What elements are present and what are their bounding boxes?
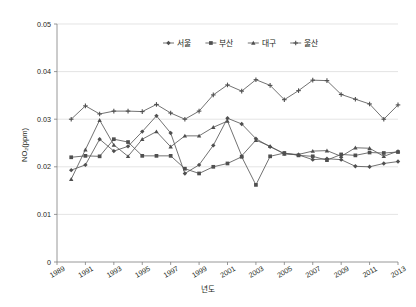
legend: 서울부산대구울산 bbox=[163, 38, 318, 48]
data-point bbox=[69, 168, 73, 172]
data-point bbox=[353, 164, 357, 168]
data-point bbox=[254, 183, 258, 187]
series-4 bbox=[69, 77, 400, 121]
legend-marker-icon bbox=[209, 41, 213, 45]
x-tick-label: 1991 bbox=[76, 264, 94, 280]
data-point bbox=[367, 165, 371, 169]
data-point bbox=[84, 154, 88, 158]
series-line bbox=[71, 120, 398, 179]
legend-item-4[interactable]: 울산 bbox=[290, 38, 318, 48]
series-line bbox=[71, 139, 398, 185]
x-tick-label: 1995 bbox=[133, 264, 151, 280]
data-point bbox=[169, 154, 173, 158]
x-tick-label: 2009 bbox=[332, 264, 350, 280]
series-line bbox=[71, 116, 398, 174]
data-point bbox=[69, 177, 73, 181]
legend-marker-icon bbox=[293, 41, 298, 46]
data-point bbox=[211, 165, 215, 169]
x-tick-label: 1993 bbox=[105, 264, 123, 280]
legend-item-3[interactable]: 대구 bbox=[248, 39, 276, 48]
x-tick-label: 1997 bbox=[162, 264, 180, 280]
data-point bbox=[183, 167, 187, 171]
data-point bbox=[140, 137, 144, 141]
x-axis-title: 년도 bbox=[201, 284, 215, 294]
data-point bbox=[112, 137, 116, 141]
legend-label: 울산 bbox=[304, 38, 318, 48]
legend-label: 대구 bbox=[262, 39, 276, 48]
legend-label: 부산 bbox=[219, 38, 233, 48]
series-line bbox=[71, 80, 398, 120]
y-tick-label: 0.01 bbox=[37, 210, 51, 219]
data-point bbox=[112, 109, 117, 114]
y-tick-label: 0.03 bbox=[37, 115, 51, 124]
x-tick-label: 2003 bbox=[247, 264, 265, 280]
data-point bbox=[97, 118, 101, 122]
x-tick-label: 2007 bbox=[304, 264, 322, 280]
data-point bbox=[126, 109, 131, 114]
y-tick-label: 0 bbox=[47, 258, 51, 267]
data-point bbox=[268, 154, 272, 158]
y-tick-label: 0.04 bbox=[37, 67, 51, 76]
data-point bbox=[126, 140, 130, 144]
data-point bbox=[83, 163, 87, 167]
series-2 bbox=[69, 137, 399, 186]
data-point bbox=[112, 143, 116, 147]
data-point bbox=[353, 97, 358, 102]
chart-container: 00.010.020.030.040.05 198919911993199519… bbox=[0, 0, 416, 307]
x-tick-label: 2001 bbox=[219, 264, 237, 280]
x-axis-tick-labels: 1989199119931995199719992001200320052007… bbox=[48, 264, 407, 280]
series-group bbox=[69, 77, 400, 186]
x-tick-label: 2011 bbox=[361, 264, 379, 280]
data-point bbox=[311, 154, 315, 158]
data-point bbox=[183, 171, 187, 175]
y-axis-title: NO₂(ppm) bbox=[20, 127, 29, 162]
data-point bbox=[325, 158, 329, 162]
data-point bbox=[154, 129, 158, 133]
y-tick-label: 0.02 bbox=[37, 162, 51, 171]
data-point bbox=[140, 109, 145, 114]
x-tick-label: 2005 bbox=[275, 264, 293, 280]
x-axis-group bbox=[57, 262, 398, 265]
y-axis-group bbox=[54, 24, 57, 262]
x-tick-label: 1999 bbox=[190, 264, 208, 280]
data-point bbox=[396, 159, 400, 163]
legend-item-2[interactable]: 부산 bbox=[205, 38, 233, 48]
data-point bbox=[226, 162, 230, 166]
y-tick-label: 0.05 bbox=[37, 20, 51, 29]
data-point bbox=[197, 172, 201, 176]
data-point bbox=[382, 161, 386, 165]
x-tick-label: 2013 bbox=[389, 264, 407, 280]
data-point bbox=[140, 154, 144, 158]
legend-item-1[interactable]: 서울 bbox=[163, 39, 191, 48]
data-point bbox=[339, 157, 343, 161]
data-point bbox=[154, 102, 159, 107]
data-point bbox=[97, 112, 102, 117]
legend-marker-icon bbox=[166, 41, 170, 45]
no2-line-chart: 00.010.020.030.040.05 198919911993199519… bbox=[0, 0, 416, 307]
legend-label: 서울 bbox=[177, 39, 191, 48]
data-point bbox=[69, 155, 73, 159]
series-1 bbox=[69, 114, 400, 176]
data-point bbox=[155, 154, 159, 158]
data-point bbox=[83, 147, 87, 151]
data-point bbox=[168, 111, 173, 116]
data-point bbox=[354, 154, 358, 158]
y-axis-tick-labels: 00.010.020.030.040.05 bbox=[37, 20, 51, 267]
y-axis-title-group: NO₂(ppm) bbox=[20, 127, 29, 162]
data-point bbox=[368, 151, 372, 155]
data-point bbox=[183, 117, 188, 122]
data-point bbox=[98, 154, 102, 158]
